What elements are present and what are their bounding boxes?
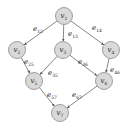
edge-label: e12 (33, 25, 43, 34)
edge-label: e57 (47, 91, 57, 100)
node-v6: v6 (96, 73, 113, 90)
node-v3: v3 (55, 42, 72, 59)
graph-canvas: e12e13e14e25e35e36e46e57e67 v1v2v3v4v5v6… (0, 0, 128, 132)
node-v1: v1 (56, 8, 73, 25)
edge-e25: e25 (21, 57, 34, 73)
edge-label: e14 (92, 24, 102, 33)
edge-e35: e35 (40, 56, 58, 77)
edge-label: e67 (72, 91, 82, 100)
edge-e67: e67 (67, 86, 97, 108)
node-v4: v4 (103, 42, 120, 59)
edges-group: e12e13e14e25e35e36e46e57e67 (21, 21, 120, 108)
edge-label: e36 (78, 58, 88, 67)
edge-e46: e46 (106, 58, 120, 74)
edge-e12: e12 (24, 21, 57, 45)
edge-e36: e36 (70, 55, 97, 75)
edge-e57: e57 (39, 88, 57, 106)
edge-label: e13 (68, 30, 78, 39)
edge-line (106, 58, 109, 72)
node-v5: v5 (26, 73, 43, 90)
edge-label: e35 (48, 69, 58, 78)
edge-label: e46 (110, 66, 120, 75)
node-v7: v7 (52, 105, 69, 122)
edge-e13: e13 (63, 24, 78, 41)
node-v2: v2 (9, 42, 26, 59)
edge-label: e25 (24, 58, 34, 67)
